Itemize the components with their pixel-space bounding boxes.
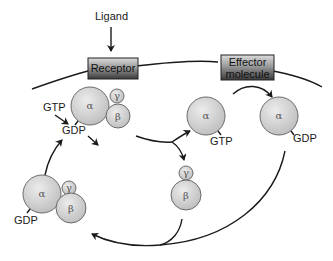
beta-subunit-label: β (115, 111, 121, 122)
cell-membrane (32, 61, 322, 89)
resting-alpha-label: α (39, 188, 46, 199)
g-protein-trimer-bound: α γ β (71, 87, 130, 128)
resting-beta-label: β (68, 203, 74, 214)
reassociation-arrow (92, 234, 160, 246)
gdp-top-label: GDP (62, 124, 86, 136)
gdp-out-arrow (88, 136, 98, 145)
beta-gamma-dimer: γ β (171, 166, 201, 210)
alpha-gtp-arrow (172, 131, 190, 142)
gtp-alpha-label: GTP (210, 135, 233, 147)
gdp-resting-label: GDP (14, 214, 38, 226)
effector-molecule: Effector molecule (221, 55, 274, 80)
alpha-gtp: α GTP (187, 97, 233, 147)
effector-label-line1: Effector (229, 56, 267, 68)
gdp-alpha-effector-label: GDP (293, 132, 317, 144)
alpha-subunit-label: α (87, 100, 94, 111)
dissociation-path (136, 136, 172, 142)
bg-gamma-label: γ (183, 167, 189, 178)
ligand-label: Ligand (95, 10, 128, 22)
g-protein-trimer-resting: α γ β GDP (14, 175, 86, 226)
effector-label-line2: molecule (225, 68, 269, 80)
alpha-gdp-subunit-label: α (276, 110, 283, 121)
g-protein-cycle-diagram: Ligand Receptor Effector molecule α γ β … (0, 0, 333, 261)
beta-gamma-return-path (160, 219, 182, 245)
gtp-in-arrow (55, 115, 68, 124)
receptor-label: Receptor (91, 62, 136, 74)
resting-gamma-label: γ (66, 182, 72, 193)
effector-activation-arrow (233, 86, 272, 97)
receptor: Receptor (88, 58, 138, 79)
gamma-subunit-label: γ (114, 90, 120, 101)
alpha-gdp-effector: α GDP (260, 97, 317, 144)
bg-beta-label: β (183, 190, 189, 201)
beta-gamma-arrow (172, 142, 184, 160)
alpha-gtp-subunit-label: α (203, 110, 210, 121)
recycle-arrow (45, 140, 62, 175)
gtp-in-label: GTP (43, 101, 66, 113)
